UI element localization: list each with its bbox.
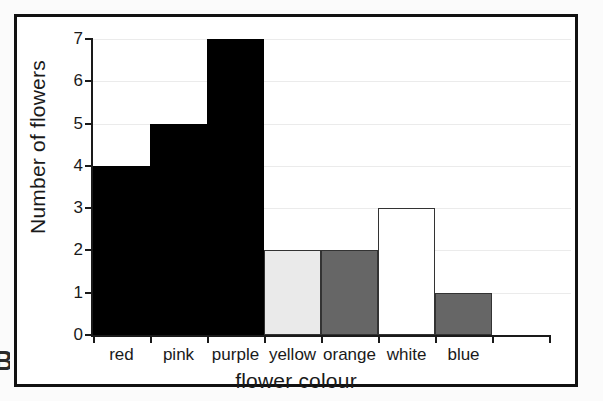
x-tick-label-blue: blue <box>447 345 479 365</box>
y-tick-mark <box>85 207 93 209</box>
y-tick-label: 1 <box>61 283 83 303</box>
y-axis-tick-labels: 01234567 <box>61 17 83 384</box>
x-tick-label-yellow: yellow <box>269 345 316 365</box>
x-tick-mark <box>549 335 551 343</box>
bar-purple <box>207 39 264 335</box>
page-corner-marker: B <box>0 344 10 378</box>
x-tick-label-purple: purple <box>212 345 259 365</box>
y-tick-label: 3 <box>61 198 83 218</box>
y-tick-label: 0 <box>61 325 83 345</box>
x-tick-label-pink: pink <box>163 345 194 365</box>
y-tick-label: 5 <box>61 114 83 134</box>
y-tick-label: 4 <box>61 156 83 176</box>
y-tick-mark <box>85 249 93 251</box>
chart-frame: 01234567 Number of flowers redpinkpurple… <box>14 14 578 387</box>
bar-orange <box>321 250 378 335</box>
x-tick-mark <box>207 335 209 343</box>
x-tick-mark <box>264 335 266 343</box>
y-tick-mark <box>85 123 93 125</box>
x-axis-title: flower colour <box>17 369 575 393</box>
bar-blue <box>435 293 492 335</box>
y-tick-mark <box>85 38 93 40</box>
x-tick-mark <box>435 335 437 343</box>
gridline <box>93 39 571 40</box>
bar-pink <box>150 124 207 335</box>
x-tick-mark <box>492 335 494 343</box>
plot-area: 01234567 Number of flowers redpinkpurple… <box>17 17 575 384</box>
bar-red <box>93 166 150 335</box>
bar-white <box>378 208 435 335</box>
x-tick-label-orange: orange <box>323 345 376 365</box>
y-tick-label: 2 <box>61 240 83 260</box>
x-tick-mark <box>321 335 323 343</box>
y-tick-label: 7 <box>61 29 83 49</box>
page-surface: B 01234567 Number of flowers redpinkpurp… <box>0 0 603 401</box>
x-tick-label-red: red <box>109 345 134 365</box>
y-axis-title: Number of flowers <box>26 22 50 272</box>
y-tick-mark <box>85 165 93 167</box>
y-tick-mark <box>85 292 93 294</box>
bar-yellow <box>264 250 321 335</box>
gridline <box>93 81 571 82</box>
x-tick-mark <box>378 335 380 343</box>
y-tick-mark <box>85 80 93 82</box>
y-tick-label: 6 <box>61 71 83 91</box>
x-tick-label-white: white <box>387 345 427 365</box>
x-tick-mark <box>93 335 95 343</box>
x-axis-line <box>91 335 549 337</box>
x-tick-mark <box>150 335 152 343</box>
